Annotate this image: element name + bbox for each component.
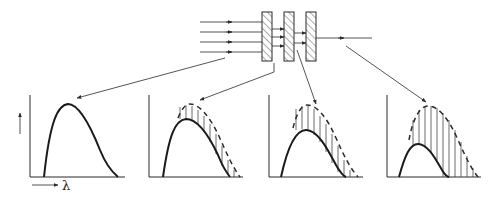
absorption-diagram: λ: [0, 0, 501, 200]
panel-after-plate-1: [149, 95, 243, 177]
plate-1: [262, 12, 272, 61]
rays-after-plate-1: [272, 29, 284, 46]
plate-3: [306, 12, 316, 61]
x-axis-indicator: λ: [32, 178, 70, 193]
lambda-label: λ: [62, 178, 70, 193]
plate-2: [284, 12, 294, 61]
incoming-rays: [200, 22, 262, 52]
rays-after-plate-2: [294, 33, 306, 43]
panel-incident: λ: [20, 95, 125, 193]
pointer-arrows: [77, 46, 426, 104]
panel-after-plate-2: [269, 95, 363, 177]
panel-after-plate-3: [387, 95, 481, 177]
